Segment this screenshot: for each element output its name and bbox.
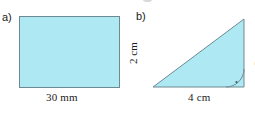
part-label-a: a) bbox=[2, 12, 12, 23]
rectangle-shape-a bbox=[20, 17, 120, 88]
rectangle-height-label: 2 cm bbox=[128, 42, 139, 64]
figure-canvas: a) b) 30 mm 2 cm 4 cm 3 cm bbox=[0, 0, 255, 113]
triangle-shape-b bbox=[153, 19, 244, 87]
right-angle-dot-icon bbox=[235, 81, 237, 83]
part-label-b: b) bbox=[136, 11, 146, 22]
triangle-height-label: 3 cm bbox=[253, 44, 255, 66]
rectangle-width-label: 30 mm bbox=[46, 92, 78, 103]
triangle-base-label: 4 cm bbox=[188, 92, 211, 103]
